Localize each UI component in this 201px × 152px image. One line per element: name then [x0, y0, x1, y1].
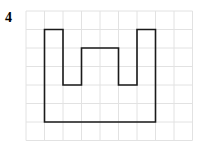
grid-figure [0, 0, 201, 152]
grid-lines [26, 11, 193, 141]
